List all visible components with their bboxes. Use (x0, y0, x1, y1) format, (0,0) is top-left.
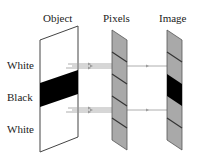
image-panel (167, 30, 182, 150)
optics-diagram (0, 0, 198, 160)
pixels-panel (112, 30, 127, 150)
object-panel (40, 26, 78, 152)
